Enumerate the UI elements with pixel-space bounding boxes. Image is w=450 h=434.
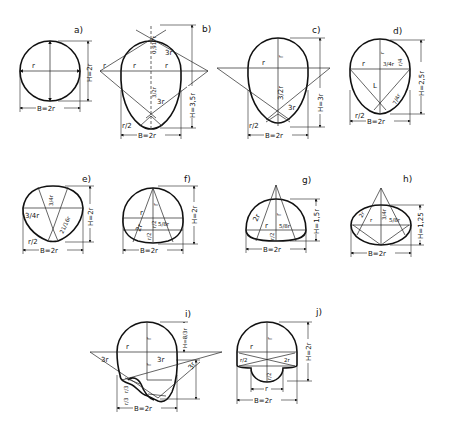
svg-text:B=2r: B=2r (254, 397, 272, 405)
svg-text:r/3: r/3 (123, 397, 129, 405)
svg-text:r: r (266, 337, 274, 340)
panel-a-title: a) (74, 25, 83, 35)
svg-text:3r: 3r (157, 98, 164, 106)
panel-j-title: j) (315, 307, 322, 317)
svg-text:2r: 2r (252, 213, 262, 223)
svg-text:0,917r: 0,917r (151, 35, 157, 54)
svg-text:r: r (133, 62, 136, 70)
svg-text:3r: 3r (165, 49, 172, 57)
svg-text:L: L (373, 82, 377, 90)
svg-text:r/2: r/2 (249, 122, 259, 130)
svg-text:r: r (126, 343, 129, 351)
panel-c-title: c) (312, 25, 320, 35)
svg-text:21/16r: 21/16r (58, 215, 71, 235)
svg-text:r/2: r/2 (28, 238, 38, 246)
svg-text:3/4r: 3/4r (383, 61, 395, 67)
svg-text:H=3r: H=3r (317, 93, 325, 112)
svg-text:r/2: r/2 (122, 122, 132, 130)
panel-g-low-arch-profile: g) 2r r r 5/8r r/2 H=1,5r B=2r (246, 175, 321, 254)
svg-text:B=2r: B=2r (140, 247, 158, 255)
svg-text:r: r (152, 203, 160, 206)
svg-text:r: r (145, 363, 153, 366)
svg-text:H=2r: H=2r (191, 205, 199, 224)
panel-e-title: e) (82, 174, 91, 184)
svg-text:5/8r: 5/8r (279, 223, 291, 229)
svg-text:3r: 3r (101, 356, 108, 364)
svg-text:3/2r: 3/2r (151, 86, 157, 98)
svg-text:B=2r: B=2r (134, 405, 152, 413)
panel-i-egg-with-channel-profile: i) r r r 3r 3r 3r r/3 r/3 H=8/3r B=2r (90, 309, 222, 413)
panel-b-title: b) (202, 24, 211, 34)
svg-text:B=2r: B=2r (263, 246, 281, 254)
svg-text:5/8r: 5/8r (389, 217, 401, 223)
panel-c-egg-profile: c) r r 3/2r 3r r/2 H=3r B=2r (217, 25, 330, 140)
svg-text:r: r (277, 55, 285, 58)
svg-text:H=1,25: H=1,25 (417, 212, 425, 239)
svg-text:5/8r: 5/8r (158, 221, 170, 227)
svg-text:B=2r: B=2r (368, 250, 386, 258)
svg-text:B=2r: B=2r (40, 247, 58, 255)
svg-text:3/4r: 3/4r (48, 194, 54, 206)
svg-text:r: r (265, 222, 268, 230)
svg-text:H=2r: H=2r (87, 207, 95, 226)
panel-d-title: d) (393, 26, 402, 36)
panel-d-short-egg-profile: d) r r 3/4r r/4 L 7/4r r/2 H=2,5r B=2r (350, 26, 426, 126)
panel-i-title: i) (185, 309, 191, 319)
svg-text:r: r (140, 209, 143, 217)
svg-text:H=3,5r: H=3,5r (189, 93, 197, 118)
panel-j-mouth-profile: j) r r r/2 2r r/2 H=2r r B=2r (237, 307, 322, 405)
svg-text:B=2r: B=2r (138, 132, 156, 140)
svg-text:r: r (275, 213, 283, 216)
svg-text:r: r (370, 217, 373, 223)
svg-text:r/2: r/2 (151, 220, 157, 228)
svg-text:3r: 3r (288, 104, 295, 112)
svg-text:2r: 2r (134, 223, 144, 233)
panel-h-flat-elliptical-profile: h) 2r r 3/4r 5/8r H=1,25 B=2r (351, 174, 425, 258)
height-label: H=2r (86, 63, 94, 82)
svg-text:3/2r: 3/2r (277, 86, 285, 100)
svg-text:r/3: r/3 (123, 385, 129, 393)
svg-text:H=8/3r: H=8/3r (182, 327, 188, 348)
radius-label: r (32, 62, 35, 70)
svg-text:r: r (250, 343, 253, 351)
svg-text:r/2: r/2 (146, 232, 152, 240)
svg-text:3/4r: 3/4r (381, 208, 387, 220)
svg-text:3/4r: 3/4r (25, 212, 39, 220)
panel-h-title: h) (403, 174, 412, 184)
panel-f-horseshoe-profile: f) r r 2r r/2 r/2 5/8r H=2r B=2r (123, 174, 199, 255)
svg-text:r: r (145, 337, 153, 340)
svg-text:H=2,5r: H=2,5r (418, 71, 426, 96)
svg-text:2r: 2r (284, 357, 290, 363)
sewer-profiles-diagram: a) r H=2r B=2r b) r r r 0,917r 3/2r 3r 3… (0, 0, 450, 434)
svg-text:r/2: r/2 (355, 112, 365, 120)
panel-g-title: g) (302, 175, 311, 185)
svg-text:r/2: r/2 (240, 357, 248, 363)
svg-text:r/4: r/4 (397, 58, 403, 66)
svg-text:r/2: r/2 (266, 372, 272, 380)
svg-text:7/4r: 7/4r (391, 92, 401, 105)
svg-text:r: r (362, 60, 365, 68)
width-label: B=2r (37, 105, 55, 113)
svg-text:r: r (262, 59, 265, 67)
svg-text:B=2r: B=2r (367, 118, 385, 126)
svg-text:r: r (103, 62, 106, 70)
svg-text:3r: 3r (157, 356, 164, 364)
svg-text:r/2: r/2 (269, 232, 275, 240)
svg-text:H=2r: H=2r (305, 342, 313, 361)
svg-text:r: r (165, 62, 168, 70)
panel-b-tall-egg-profile: b) r r r 0,917r 3/2r 3r 3r r/2 H=3,5r B=… (100, 24, 211, 140)
svg-text:B=2r: B=2r (265, 132, 283, 140)
svg-text:r: r (265, 385, 268, 393)
panel-a-circular-profile: a) r H=2r B=2r (20, 25, 94, 113)
svg-text:H=1,5r: H=1,5r (313, 209, 321, 234)
panel-e-rounded-triangle-profile: e) 3/4r 3/4r 21/16r r/2 H=2r B=2r (23, 174, 95, 255)
panel-f-title: f) (184, 174, 191, 184)
